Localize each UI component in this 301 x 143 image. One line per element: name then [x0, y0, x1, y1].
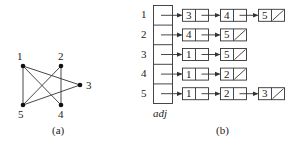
list-node-value-5-2: 2: [224, 88, 230, 99]
adj-index-2: 2: [141, 29, 147, 40]
adj-array-label: adj: [153, 108, 167, 119]
vertex-4: [59, 103, 64, 108]
vertex-label-4: 4: [58, 109, 64, 120]
vertex-1: [21, 64, 26, 69]
list-node-value-1-4: 4: [224, 10, 230, 21]
vertex-5: [21, 103, 26, 108]
caption-a: (a): [52, 125, 64, 136]
list-node-value-3-1: 1: [186, 49, 192, 60]
list-node-value-1-5: 5: [262, 10, 268, 21]
adj-index-4: 4: [141, 68, 147, 79]
adj-index-5: 5: [141, 88, 147, 99]
vertex-3: [78, 83, 83, 88]
list-node-value-3-5: 5: [224, 49, 230, 60]
list-node-value-4-1: 1: [186, 69, 192, 80]
vertex-2: [59, 64, 64, 69]
list-node-value-5-1: 1: [186, 88, 192, 99]
vertex-label-2: 2: [58, 51, 64, 62]
list-node-value-1-3: 3: [186, 10, 192, 21]
list-node-value-5-3: 3: [262, 88, 268, 99]
adj-index-1: 1: [141, 9, 147, 20]
caption-b: (b): [216, 125, 229, 136]
vertex-label-1: 1: [17, 51, 23, 62]
adj-index-3: 3: [141, 49, 147, 60]
list-node-value-4-2: 2: [224, 69, 230, 80]
diagram-canvas: [0, 0, 301, 143]
list-node-value-2-4: 4: [186, 29, 192, 40]
figure: (a) adj (b) 1234513452453154125123: [0, 0, 301, 143]
edge-3-5: [23, 85, 80, 105]
vertex-label-3: 3: [86, 80, 92, 91]
vertex-label-5: 5: [18, 109, 24, 120]
list-node-value-2-5: 5: [224, 29, 230, 40]
